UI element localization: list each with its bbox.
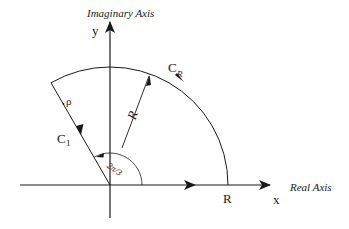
arc-label-C: C <box>168 60 177 75</box>
x-label: x <box>273 192 280 207</box>
x-intercept-R-label: R <box>223 191 232 206</box>
rho-marker <box>63 103 65 105</box>
arc-label-sub-R: R <box>176 69 183 79</box>
contour-diagram: Imaginary Axis y Real Axis x R C R C 1 ρ… <box>0 0 349 229</box>
angle-label: 2π/3 <box>105 160 124 178</box>
ray-label-C: C <box>57 131 66 146</box>
real-axis-label: Real Axis <box>289 181 332 193</box>
imaginary-axis-label: Imaginary Axis <box>86 7 154 19</box>
y-label: y <box>92 23 99 38</box>
radius-R-label: R <box>124 109 141 123</box>
ray-label-sub-1: 1 <box>66 138 71 148</box>
rho-label: ρ <box>66 95 72 107</box>
